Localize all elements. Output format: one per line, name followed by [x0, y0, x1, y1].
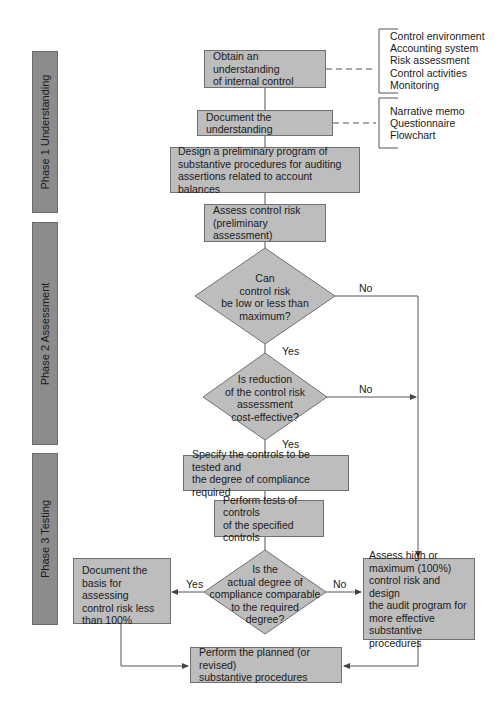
box-perform-tests: Perform tests of controlsof the specifie… [214, 500, 324, 537]
edge-label-no-2: No [359, 383, 372, 395]
box-text: substantive procedures for auditing [178, 158, 352, 171]
box-text: substantive procedures [369, 624, 469, 649]
decision-text-compliance: Is theactual degree ofcompliance compara… [210, 563, 321, 626]
box-document-understanding: Document the understanding [197, 110, 333, 136]
edge-label-no-1: No [359, 282, 372, 294]
box-text: Perform tests of controls [223, 494, 315, 519]
phase-label: Phase 1 Understanding [39, 75, 51, 190]
box-text: of the specified controls [223, 519, 315, 544]
phase-bar-testing: Phase 3 Testing [32, 453, 58, 625]
box-text: Perform the planned (or revised) [199, 646, 333, 671]
box-document-basis: Document thebasis for assessingcontrol r… [73, 558, 171, 624]
box-text: more effective [369, 612, 469, 625]
decision-text-cost-effective: Is reductionof the control riskassessmen… [225, 373, 305, 423]
phase-bar-assessment: Phase 2 Assessment [32, 222, 58, 445]
box-text: Document the understanding [206, 111, 324, 136]
box-design-program: Design a preliminary program ofsubstanti… [170, 147, 360, 193]
box-text: than 100% [82, 614, 162, 627]
phase-label: Phase 2 Assessment [39, 282, 51, 385]
box-obtain-understanding: Obtain an understandingof internal contr… [204, 50, 326, 88]
box-text: Document the [82, 564, 162, 577]
box-text: basis for assessing [82, 577, 162, 602]
box-assess-high-risk: Assess high ormaximum (100%)control risk… [363, 558, 475, 640]
edge-label-yes-3: Yes [186, 578, 203, 590]
box-text: control risk and design [369, 574, 469, 599]
box-assess-control-risk: Assess control risk(preliminary assessme… [204, 204, 326, 242]
box-text: Obtain an understanding [213, 50, 317, 75]
box-specify-controls: Specify the controls to be tested andthe… [183, 455, 349, 491]
decision-text-low-risk: Cancontrol riskbe low or less thanmaximu… [221, 272, 309, 322]
edge-label-yes-1: Yes [282, 345, 299, 357]
box-text: substantive procedures [199, 671, 333, 684]
box-text: Assess control risk [213, 204, 317, 217]
box-text: Design a preliminary program of [178, 145, 352, 158]
phase-label: Phase 3 Testing [39, 500, 51, 578]
internal-control-components-list: Control environment Accounting system Ri… [390, 30, 485, 91]
box-perform-planned-procedures: Perform the planned (or revised)substant… [190, 647, 342, 683]
documentation-methods-list: Narrative memo Questionnaire Flowchart [390, 105, 465, 142]
edge-label-no-3: No [333, 578, 346, 590]
phase-bar-understanding: Phase 1 Understanding [32, 51, 58, 213]
box-text: the audit program for [369, 599, 469, 612]
box-text: maximum (100%) [369, 562, 469, 575]
box-text: (preliminary assessment) [213, 217, 317, 242]
box-text: Specify the controls to be tested and [192, 448, 340, 473]
edge-label-yes-2: Yes [282, 438, 299, 450]
box-text: control risk less [82, 602, 162, 615]
box-text: Assess high or [369, 549, 469, 562]
box-text: assertions related to account balances [178, 170, 352, 195]
box-text: of internal control [213, 75, 317, 88]
